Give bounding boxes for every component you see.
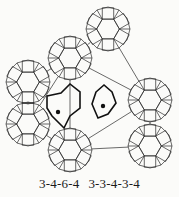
square — [102, 8, 113, 19]
square — [64, 68, 75, 79]
caption-label-3-4-6-4: 3-4-6-4 — [39, 176, 79, 194]
figure-caption: 3-4-6-4 3-3-4-3-4 — [0, 176, 179, 194]
square — [64, 37, 75, 48]
square — [144, 79, 155, 90]
square — [102, 39, 113, 50]
rosette — [86, 7, 130, 51]
hexagon — [17, 114, 40, 134]
connector-edge — [119, 48, 139, 81]
highlight-3-3-4-3-4 — [92, 85, 116, 118]
square — [144, 110, 155, 121]
caption-label-3-3-4-3-4: 3-3-4-3-4 — [88, 176, 140, 194]
connector-edge — [47, 69, 51, 71]
connector-edge — [40, 77, 58, 106]
rosette — [6, 102, 50, 146]
tiling-figure — [0, 0, 179, 175]
hexagon — [17, 72, 40, 92]
square — [22, 103, 33, 114]
connector-edge — [47, 136, 52, 139]
hexagon — [59, 48, 82, 68]
rosette — [6, 60, 50, 104]
connector-edge — [87, 42, 90, 44]
rosette — [48, 36, 92, 80]
square — [22, 134, 33, 145]
square — [144, 156, 155, 167]
highlight-3-4-6-4 — [47, 84, 80, 128]
rosette — [128, 124, 172, 168]
connector-edge — [89, 112, 132, 139]
highlighted-vertex-figures — [47, 84, 116, 128]
square — [64, 129, 75, 140]
square — [22, 92, 33, 103]
vertex-dot-3-3-4-3-4 — [101, 104, 105, 108]
hexagon — [139, 136, 162, 156]
square — [64, 160, 75, 171]
rosette-group — [6, 7, 172, 172]
hexagon — [139, 90, 162, 110]
connector-edge — [89, 68, 130, 90]
rosette — [128, 78, 172, 122]
vertex-dot-3-4-6-4 — [56, 110, 60, 114]
rosette — [48, 128, 92, 172]
connector-edge — [92, 147, 128, 149]
square — [144, 125, 155, 136]
hexagon — [59, 140, 82, 160]
hexagon — [97, 19, 120, 39]
square — [22, 61, 33, 72]
